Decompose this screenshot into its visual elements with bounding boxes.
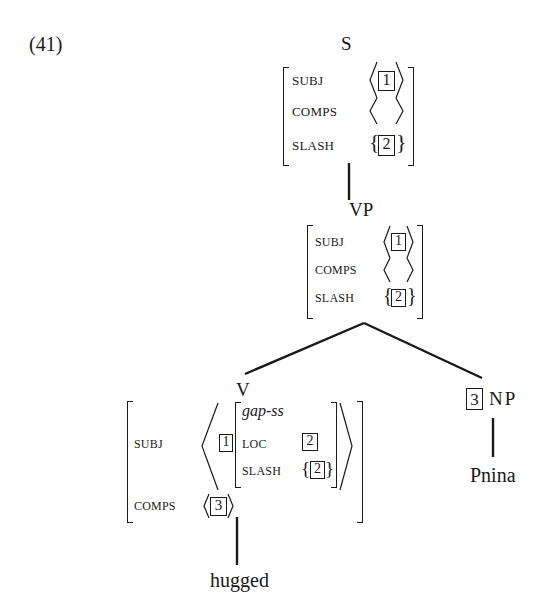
- v-loc-tag: 2: [302, 433, 318, 451]
- s-comps-feature: COMPS: [292, 105, 337, 118]
- s-slash-tag: 2: [378, 135, 395, 156]
- s-subj-langle: [370, 62, 377, 98]
- s-subj-tag: 1: [378, 71, 395, 91]
- s-comps-langle: [370, 98, 377, 124]
- v-subj-type: gap-ss: [242, 402, 284, 420]
- vp-comps-feature: COMPS: [315, 264, 357, 276]
- v-avm-right-bracket: [357, 401, 363, 523]
- v-loc-feature: LOC: [242, 438, 267, 450]
- vp-comps-rangle: [407, 258, 413, 282]
- v-inner-slash-feature: SLASH: [242, 465, 281, 477]
- branch-vp-v: [245, 323, 364, 374]
- v-subj-tag: 1: [219, 434, 233, 452]
- s-subj-feature: SUBJ: [292, 74, 323, 87]
- vp-node-label: VP: [349, 200, 373, 219]
- v-comps-rangle: [228, 494, 233, 518]
- v-comps-langle: [204, 494, 209, 518]
- v-subj-feature: SUBJ: [134, 438, 163, 450]
- vp-subj-feature: SUBJ: [315, 236, 344, 248]
- v-node-label: V: [236, 380, 250, 399]
- v-inner-slash-lbrace: {: [301, 459, 310, 478]
- s-slash-feature: SLASH: [292, 139, 334, 152]
- v-inner-avm-left-bracket: [235, 402, 241, 488]
- s-avm-left-bracket: [283, 67, 289, 166]
- v-inner-slash-tag: 2: [310, 461, 325, 479]
- branch-vp-np: [364, 323, 482, 378]
- vp-slash-tag: 2: [391, 289, 406, 307]
- vp-avm-right-bracket: [417, 225, 423, 319]
- example-number: (41): [29, 34, 62, 54]
- s-slash-rbrace: }: [396, 131, 407, 153]
- np-node-label: NP: [489, 389, 517, 408]
- vp-subj-tag: 1: [391, 233, 406, 251]
- v-subj-langle: [202, 403, 218, 490]
- vp-subj-langle: [384, 226, 390, 258]
- word-pnina: Pnina: [470, 465, 516, 485]
- tree-branches: [0, 0, 549, 608]
- vp-slash-rbrace: }: [407, 285, 417, 305]
- vp-subj-rangle: [407, 226, 413, 258]
- v-comps-feature: COMPS: [134, 500, 176, 512]
- v-avm-left-bracket: [127, 401, 133, 523]
- np-tag: 3: [466, 388, 483, 410]
- word-hugged: hugged: [210, 570, 269, 590]
- v-inner-slash-rbrace: }: [325, 459, 334, 478]
- s-node-label: S: [341, 34, 352, 53]
- vp-comps-langle: [384, 258, 390, 282]
- v-comps-tag: 3: [210, 497, 227, 516]
- vp-avm-left-bracket: [307, 225, 313, 319]
- s-avm-right-bracket: [408, 67, 414, 166]
- s-subj-rangle: [396, 62, 403, 98]
- s-comps-rangle: [396, 98, 403, 124]
- v-subj-rangle: [340, 403, 352, 490]
- vp-slash-feature: SLASH: [315, 292, 354, 304]
